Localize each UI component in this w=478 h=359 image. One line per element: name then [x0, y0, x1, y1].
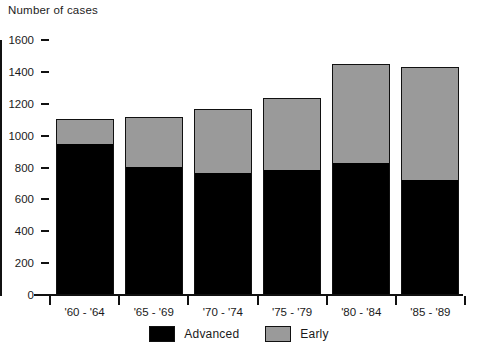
bar-segment-advanced [195, 173, 251, 294]
x-axis-tick [118, 296, 120, 305]
x-axis-tick-label: '60 - '64 [64, 306, 104, 318]
bar-segment-advanced [126, 167, 182, 294]
stacked-bar-chart: Number of cases 020040060080010001200140… [0, 0, 478, 359]
x-axis-tick-label: '80 - '84 [341, 306, 381, 318]
x-axis-tick-label: '85 - '89 [410, 306, 450, 318]
y-axis-tick-label: 1000 [0, 130, 34, 142]
y-axis-tick-label: 0 [0, 289, 34, 301]
y-axis-tick-label: 1200 [0, 98, 34, 110]
bar-2 [194, 109, 252, 295]
bar-0 [56, 119, 114, 295]
bar-1 [125, 117, 183, 295]
x-axis-tick [49, 296, 51, 305]
legend-item-advanced[interactable]: Advanced [149, 326, 239, 342]
legend-swatch-advanced-icon [149, 326, 175, 342]
x-axis-tick [326, 296, 328, 305]
y-axis-tick-label: 1600 [0, 34, 34, 46]
bar-segment-advanced [264, 170, 320, 294]
x-axis-tick-label: '65 - '69 [134, 306, 174, 318]
y-axis-tick-label: 400 [0, 225, 34, 237]
plot-area [48, 40, 463, 295]
x-axis-tick-label: '75 - '79 [272, 306, 312, 318]
y-axis-tick-label: 200 [0, 257, 34, 269]
y-axis-tick-label: 600 [0, 193, 34, 205]
bar-4 [332, 64, 390, 295]
legend-label-advanced: Advanced [184, 327, 239, 341]
legend-label-early: Early [300, 327, 328, 341]
y-axis-tick-label: 1400 [0, 66, 34, 78]
legend-item-early[interactable]: Early [265, 326, 328, 342]
y-axis-tick-label: 800 [0, 162, 34, 174]
legend-swatch-early-icon [265, 326, 291, 342]
x-axis-tick [395, 296, 397, 305]
x-axis-tick [257, 296, 259, 305]
bar-segment-advanced [402, 180, 458, 294]
chart-legend: Advanced Early [0, 326, 478, 342]
page-title: Number of cases [8, 4, 98, 16]
x-axis-tick [187, 296, 189, 305]
bar-segment-advanced [57, 144, 113, 294]
x-axis-tick [464, 296, 466, 305]
bar-3 [263, 98, 321, 295]
x-axis-tick-label: '70 - '74 [203, 306, 243, 318]
bar-segment-advanced [333, 163, 389, 294]
bar-5 [401, 67, 459, 295]
